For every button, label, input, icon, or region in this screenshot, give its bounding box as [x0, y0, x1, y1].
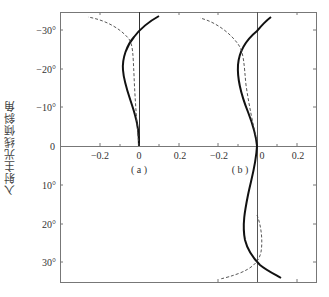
x-tick-label: 0.2: [292, 150, 305, 161]
panel-a-solid-curve: [123, 16, 159, 146]
x-tick-label: 0: [260, 150, 265, 161]
y-tick-label: 10°: [42, 180, 56, 191]
panel-a-label: ( a ): [131, 164, 147, 176]
y-tick-label: 0: [50, 141, 55, 152]
panel-a-x-tick-labels: −0.2 0 0.2 ( a ): [91, 150, 186, 176]
panel-a-dashed-curve: [88, 17, 139, 146]
x-tick-label: 0.2: [174, 150, 187, 161]
y-tick-label: 20°: [42, 219, 56, 230]
y-tick-label: −30°: [36, 25, 56, 36]
y-tick-label: −10°: [36, 102, 56, 113]
panel-b-solid-curve-upper: [238, 17, 271, 146]
middle-x-ticks: [100, 143, 297, 146]
x-tick-label: 0: [137, 150, 142, 161]
y-tick-label: −20°: [36, 64, 56, 75]
chart-canvas: −30° −20° −10° 0 10° 20° 30° −0.2 0 0.2 …: [0, 0, 329, 297]
y-tick-labels: −30° −20° −10° 0 10° 20° 30°: [36, 25, 56, 268]
y-tick-label: 30°: [42, 257, 56, 268]
panel-b-dashed-curve-upper: [200, 18, 257, 140]
panel-b-dashed-curve-lower: [220, 215, 262, 279]
x-tick-label: −0.2: [210, 150, 228, 161]
plot-frame: [61, 13, 317, 283]
x-tick-label: −0.2: [91, 150, 109, 161]
panel-b-label: ( b ): [232, 164, 249, 176]
panel-b-solid-curve-lower: [244, 146, 281, 278]
